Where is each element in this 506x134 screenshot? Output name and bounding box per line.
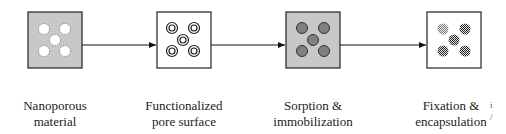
label-line-2: pore surface — [124, 114, 244, 130]
step-box-functionalized — [157, 12, 211, 68]
label-line-2: immobilization — [253, 114, 373, 130]
label-nanoporous: Nanoporous material — [0, 98, 115, 130]
edge-mark-top: i — [490, 100, 493, 110]
label-sorption: Sorption & immobilization — [253, 98, 373, 130]
label-line-2: encapsulation — [391, 114, 506, 130]
step-box-nanoporous — [28, 12, 82, 68]
step-box-fixation — [427, 12, 481, 68]
step-box-sorption — [286, 12, 340, 68]
label-fixation: Fixation & encapsulation — [391, 98, 506, 130]
label-line-2: material — [0, 114, 115, 130]
edge-mark-bottom: / — [490, 112, 493, 122]
label-functionalized: Functionalized pore surface — [124, 98, 244, 130]
label-line-1: Nanoporous — [0, 98, 115, 114]
label-line-1: Fixation & — [391, 98, 506, 114]
label-line-1: Sorption & — [253, 98, 373, 114]
label-line-1: Functionalized — [124, 98, 244, 114]
